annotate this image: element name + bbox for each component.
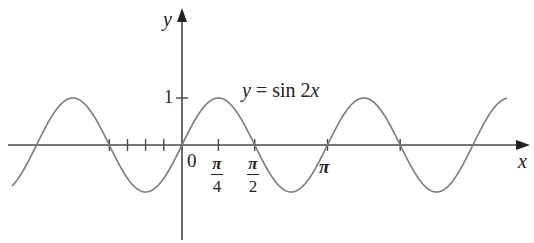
- function-annotation: y = sin 2x: [242, 80, 319, 100]
- y-axis-label: y: [163, 9, 172, 29]
- annotation-rhs: = sin 2: [251, 79, 311, 101]
- annotation-y: y: [242, 79, 251, 101]
- fraction-denominator: 4: [213, 178, 222, 195]
- x-tick-label-pi-over-4: π 4: [211, 155, 223, 195]
- x-axis-label: x: [518, 151, 527, 171]
- x-tick-label-pi-over-2: π 2: [247, 155, 259, 195]
- fraction-numerator: π: [247, 155, 258, 172]
- x-axis-arrow-icon: [516, 140, 530, 150]
- fraction-bar: [247, 174, 259, 175]
- y-axis-arrow-icon: [177, 8, 187, 22]
- y-tick-label-1: 1: [164, 88, 173, 106]
- fraction-bar: [211, 174, 223, 175]
- sine-chart: [0, 0, 534, 243]
- origin-label: 0: [187, 151, 197, 170]
- x-tick-label-pi: π: [319, 157, 329, 176]
- fraction-numerator: π: [211, 155, 222, 172]
- fraction-denominator: 2: [249, 178, 258, 195]
- annotation-x: x: [311, 79, 320, 101]
